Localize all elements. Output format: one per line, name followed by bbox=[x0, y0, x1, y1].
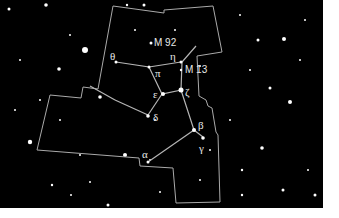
label-gamma: γ bbox=[198, 142, 204, 154]
star-pi bbox=[148, 66, 151, 69]
label-epsilon: ε bbox=[153, 88, 158, 100]
m92-marker bbox=[150, 42, 153, 45]
m13-marker bbox=[180, 69, 182, 71]
label-alpha: α bbox=[142, 148, 148, 160]
label-m92: M 92 bbox=[154, 37, 177, 48]
label-delta: δ bbox=[153, 111, 158, 123]
label-eta: η bbox=[170, 50, 176, 62]
label-zeta: ζ bbox=[185, 86, 190, 99]
constellation-boundary bbox=[37, 6, 222, 203]
background-stars bbox=[8, 3, 317, 206]
star-gamma bbox=[201, 136, 205, 140]
star-epsilon bbox=[161, 92, 165, 96]
label-theta: θ bbox=[110, 50, 115, 62]
star-alpha bbox=[147, 161, 150, 164]
star-zeta bbox=[179, 88, 184, 93]
star-eta bbox=[180, 61, 183, 64]
named-stars bbox=[115, 42, 205, 164]
label-m13: M 13 bbox=[185, 64, 208, 75]
star-delta bbox=[146, 114, 150, 118]
star-beta bbox=[192, 128, 196, 132]
label-pi: π bbox=[155, 67, 161, 79]
star-chart: θ π η ε ζ δ β γ α M 92 M 13 bbox=[0, 0, 339, 218]
label-beta: β bbox=[198, 119, 204, 131]
